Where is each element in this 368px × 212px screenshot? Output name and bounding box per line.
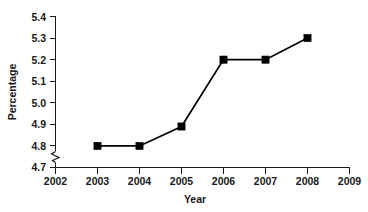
y-tick-label-5-1: 5.1 bbox=[31, 75, 46, 87]
y-axis-title: Percentage bbox=[6, 64, 18, 121]
x-tick-label-2005: 2005 bbox=[170, 175, 194, 187]
x-tick-label-2003: 2003 bbox=[86, 175, 110, 187]
y-tick-label-5-0: 5.0 bbox=[31, 97, 46, 109]
data-point-2007 bbox=[262, 56, 269, 63]
x-tick-label-2002: 2002 bbox=[44, 175, 68, 187]
y-tick-label-5-2: 5.2 bbox=[31, 54, 46, 66]
y-axis: 5.4 5.3 5.2 5.1 5.0 4.9 4.8 4.7 Percenta… bbox=[6, 11, 60, 174]
x-axis-ticks bbox=[56, 168, 350, 174]
data-point-2005 bbox=[178, 123, 185, 130]
x-axis: 2002 2003 2004 2005 2006 2007 2008 2009 … bbox=[44, 168, 362, 206]
y-tick-label-5-3: 5.3 bbox=[31, 32, 46, 44]
y-axis-ticks bbox=[50, 17, 56, 168]
data-point-2008 bbox=[304, 34, 311, 41]
series-line-percentage bbox=[98, 38, 308, 146]
data-point-2003 bbox=[94, 142, 101, 149]
y-tick-label-4-8: 4.8 bbox=[31, 140, 46, 152]
data-point-2004 bbox=[136, 142, 143, 149]
x-tick-label-2004: 2004 bbox=[128, 175, 152, 187]
y-tick-label-5-4: 5.4 bbox=[31, 11, 46, 23]
line-chart-figure: 5.4 5.3 5.2 5.1 5.0 4.9 4.8 4.7 Percenta… bbox=[0, 0, 368, 212]
x-tick-label-2009: 2009 bbox=[338, 175, 362, 187]
x-tick-label-2006: 2006 bbox=[212, 175, 236, 187]
x-tick-label-2008: 2008 bbox=[296, 175, 320, 187]
y-axis-break-icon bbox=[52, 151, 60, 163]
chart-canvas: 5.4 5.3 5.2 5.1 5.0 4.9 4.8 4.7 Percenta… bbox=[0, 0, 368, 212]
x-tick-label-2007: 2007 bbox=[254, 175, 278, 187]
x-axis-title: Year bbox=[184, 193, 206, 205]
y-axis-tick-labels: 5.4 5.3 5.2 5.1 5.0 4.9 4.8 4.7 bbox=[31, 11, 46, 174]
y-tick-label-4-7: 4.7 bbox=[31, 161, 46, 173]
x-axis-tick-labels: 2002 2003 2004 2005 2006 2007 2008 2009 bbox=[44, 175, 362, 187]
y-tick-label-4-9: 4.9 bbox=[31, 118, 46, 130]
data-point-2006 bbox=[220, 56, 227, 63]
data-series-percentage bbox=[94, 34, 311, 149]
